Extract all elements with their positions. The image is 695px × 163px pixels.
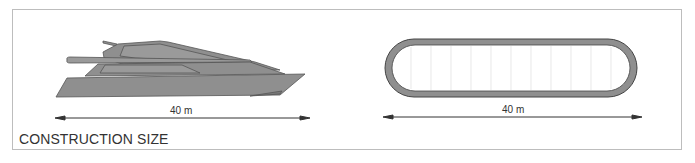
yacht-length-label: 40 m: [170, 105, 192, 116]
yacht-dimension-arrow: [55, 116, 310, 120]
yacht-side-view: [56, 41, 305, 97]
hull-plan-view: [385, 39, 637, 97]
caption-title: CONSTRUCTION SIZE: [19, 131, 168, 147]
hull-dimension-arrow: [383, 115, 642, 119]
hull-length-label: 40 m: [502, 104, 524, 115]
